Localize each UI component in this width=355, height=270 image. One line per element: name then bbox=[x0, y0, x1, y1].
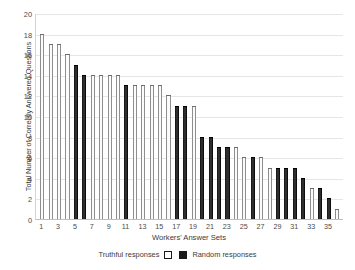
y-axis-tick-8: 8 bbox=[16, 133, 32, 142]
bar-slot bbox=[38, 14, 46, 219]
bar-slot bbox=[232, 14, 240, 219]
bar-slot bbox=[63, 14, 71, 219]
bar-slot bbox=[249, 14, 257, 219]
bar-slot bbox=[257, 14, 265, 219]
bar-slot bbox=[105, 14, 113, 219]
bar-slot bbox=[274, 14, 282, 219]
bar-series-container bbox=[36, 14, 343, 219]
bar-1 bbox=[40, 34, 44, 219]
bar-slot bbox=[89, 14, 97, 219]
bar-20 bbox=[200, 137, 204, 219]
bar-10 bbox=[116, 75, 120, 219]
bar-slot bbox=[72, 14, 80, 219]
bar-28 bbox=[268, 168, 272, 220]
bar-35 bbox=[327, 198, 331, 219]
bar-slot bbox=[282, 14, 290, 219]
bar-slot bbox=[265, 14, 273, 219]
bar-slot bbox=[131, 14, 139, 219]
bar-slot bbox=[181, 14, 189, 219]
bar-17 bbox=[175, 106, 179, 219]
bar-25 bbox=[242, 157, 246, 219]
bar-slot bbox=[55, 14, 63, 219]
bar-7 bbox=[91, 75, 95, 219]
bar-4 bbox=[65, 54, 69, 219]
x-axis-title: Workers' Answer Sets bbox=[35, 233, 343, 242]
legend-entry-random: Random responses bbox=[179, 250, 256, 259]
bar-slot bbox=[97, 14, 105, 219]
bar-slot bbox=[333, 14, 341, 219]
bar-slot bbox=[215, 14, 223, 219]
bar-slot bbox=[206, 14, 214, 219]
bar-slot bbox=[147, 14, 155, 219]
bar-slot bbox=[308, 14, 316, 219]
bar-14 bbox=[150, 85, 154, 219]
plot-area bbox=[35, 14, 343, 220]
bar-3 bbox=[57, 44, 61, 219]
bar-12 bbox=[133, 85, 137, 219]
bar-slot bbox=[139, 14, 147, 219]
bar-19 bbox=[192, 106, 196, 219]
bar-29 bbox=[276, 168, 280, 220]
bar-13 bbox=[141, 85, 145, 219]
y-axis-tick-2: 2 bbox=[16, 195, 32, 204]
y-axis-tick-18: 18 bbox=[16, 30, 32, 39]
bar-27 bbox=[259, 157, 263, 219]
bar-slot bbox=[122, 14, 130, 219]
bar-slot bbox=[324, 14, 332, 219]
bar-slot bbox=[80, 14, 88, 219]
y-axis-tick-14: 14 bbox=[16, 71, 32, 80]
bar-36 bbox=[335, 209, 339, 219]
bar-31 bbox=[293, 168, 297, 220]
y-axis-tick-6: 6 bbox=[16, 154, 32, 163]
legend-entry-truthful: Truthful responses bbox=[98, 250, 172, 259]
legend-swatch-truthful-icon bbox=[164, 251, 172, 259]
legend-label-truthful: Truthful responses bbox=[98, 250, 159, 259]
bar-5 bbox=[74, 65, 78, 220]
bar-6 bbox=[82, 75, 86, 219]
bar-chart: Total Number of Correctly Answered Quest… bbox=[0, 0, 355, 270]
bar-33 bbox=[310, 188, 314, 219]
bar-23 bbox=[225, 147, 229, 219]
bar-32 bbox=[301, 178, 305, 219]
bar-slot bbox=[316, 14, 324, 219]
bar-slot bbox=[223, 14, 231, 219]
bar-34 bbox=[318, 188, 322, 219]
legend-swatch-random-icon bbox=[179, 251, 187, 259]
y-axis-tick-0: 0 bbox=[16, 216, 32, 225]
bar-8 bbox=[99, 75, 103, 219]
bar-26 bbox=[251, 157, 255, 219]
bar-slot bbox=[164, 14, 172, 219]
bar-slot bbox=[190, 14, 198, 219]
bar-15 bbox=[158, 85, 162, 219]
bar-slot bbox=[114, 14, 122, 219]
y-axis-tick-16: 16 bbox=[16, 51, 32, 60]
bar-11 bbox=[124, 85, 128, 219]
bar-18 bbox=[183, 106, 187, 219]
legend-label-random: Random responses bbox=[192, 250, 256, 259]
bar-22 bbox=[217, 147, 221, 219]
bar-slot bbox=[46, 14, 54, 219]
bar-16 bbox=[166, 95, 170, 219]
bar-slot bbox=[240, 14, 248, 219]
y-axis-tick-10: 10 bbox=[16, 113, 32, 122]
y-axis-tick-labels: 20181614121086420 bbox=[16, 14, 32, 220]
bar-24 bbox=[234, 147, 238, 219]
bar-slot bbox=[198, 14, 206, 219]
y-axis-tick-4: 4 bbox=[16, 174, 32, 183]
y-axis-tick-20: 20 bbox=[16, 10, 32, 19]
bar-9 bbox=[108, 75, 112, 219]
bar-slot bbox=[299, 14, 307, 219]
bar-21 bbox=[209, 137, 213, 219]
y-axis-tick-12: 12 bbox=[16, 92, 32, 101]
bar-slot bbox=[156, 14, 164, 219]
bar-30 bbox=[284, 168, 288, 220]
bar-slot bbox=[173, 14, 181, 219]
bar-slot bbox=[291, 14, 299, 219]
bar-2 bbox=[49, 44, 53, 219]
chart-legend: Truthful responses Random responses bbox=[0, 250, 355, 259]
